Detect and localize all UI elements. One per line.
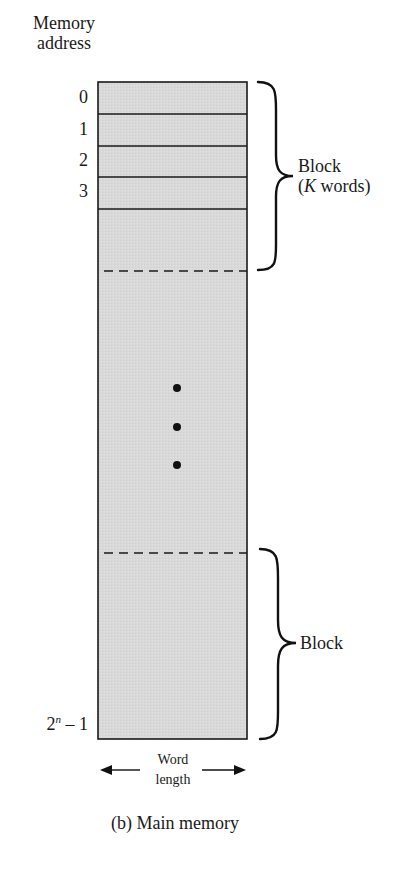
k-words-label: (K words) xyxy=(298,176,371,196)
arrow-head-right-icon xyxy=(234,765,246,775)
ellipsis-dot xyxy=(173,461,181,469)
address-label-2: 2 xyxy=(60,150,88,170)
word-length-line2: length xyxy=(133,770,213,790)
memory-address-header: Memory address xyxy=(14,13,114,53)
address-label-1: 1 xyxy=(60,119,88,139)
address-label-last: 2n – 1 xyxy=(20,714,88,734)
block-label-bottom: Block xyxy=(300,633,343,653)
curly-brace-bottom xyxy=(260,549,296,739)
last-address-suffix: – 1 xyxy=(61,714,88,734)
header-line1: Memory xyxy=(14,13,114,33)
address-label-0: 0 xyxy=(60,87,88,107)
address-label-3: 3 xyxy=(60,181,88,201)
word-length-label: Word length xyxy=(133,750,213,790)
ellipsis-dot xyxy=(173,423,181,431)
memory-column xyxy=(98,82,247,739)
figure-caption: (b) Main memory xyxy=(60,813,290,833)
curly-brace-top xyxy=(258,82,293,270)
block-label-top: Block xyxy=(298,156,371,176)
ellipsis-dot xyxy=(173,384,181,392)
block-k-words-label: Block (K words) xyxy=(298,156,371,196)
word-length-line1: Word xyxy=(133,750,213,770)
header-line2: address xyxy=(14,33,114,53)
last-address-base: 2 xyxy=(47,714,56,734)
arrow-head-left-icon xyxy=(100,765,112,775)
